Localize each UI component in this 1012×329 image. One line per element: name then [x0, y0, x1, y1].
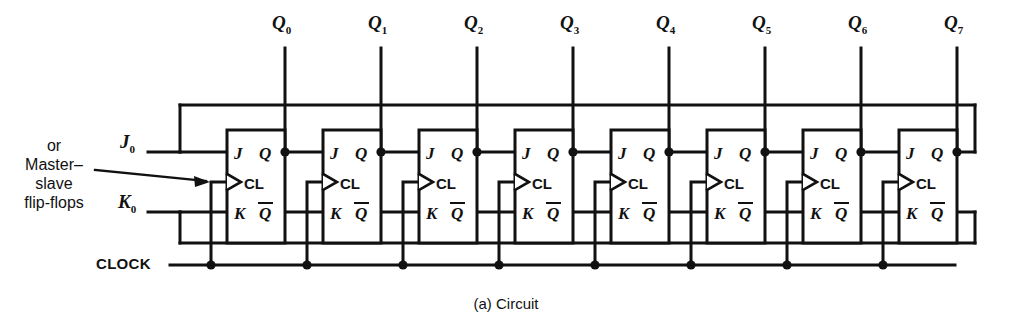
annotation-line-0: or [8, 136, 100, 155]
pin-k-0: K [233, 204, 247, 223]
dot-q1 [376, 147, 385, 156]
pin-j-5: J [713, 144, 723, 163]
output-label-q1: Q1 [368, 12, 387, 36]
annotation-arrow-line [95, 170, 206, 181]
pin-q-4: Q [643, 144, 655, 163]
pin-q-5: Q [739, 144, 751, 163]
pin-cl-0: CL [244, 175, 264, 192]
pin-j-6: J [809, 144, 819, 163]
dot-clock-4 [590, 260, 599, 269]
schematic-svg: J Q CL K Q J Q CL K Q J Q CL K Q J Q CL … [0, 0, 1012, 329]
annotation-line-3: flip-flops [8, 193, 100, 212]
dot-clock-7 [878, 260, 887, 269]
pin-cl-7: CL [916, 175, 936, 192]
figure-caption: (a) Circuit [0, 295, 1012, 312]
output-label-q7: Q7 [944, 12, 963, 36]
pin-cl-6: CL [820, 175, 840, 192]
input-label-j0: J0 [120, 131, 135, 155]
pin-cl-4: CL [628, 175, 648, 192]
pin-cl-5: CL [724, 175, 744, 192]
output-label-q6: Q6 [848, 12, 867, 36]
clock-stub-7 [883, 182, 899, 265]
output-label-q3: Q3 [560, 12, 579, 36]
pin-j-0: J [233, 144, 243, 163]
dot-q4 [664, 147, 673, 156]
dot-q2 [472, 147, 481, 156]
clock-stub-4 [595, 182, 611, 265]
output-label-q4: Q4 [656, 12, 675, 36]
pin-qbar-3: Q [547, 204, 559, 223]
pin-q-1: Q [355, 144, 367, 163]
clock-stub-5 [691, 182, 707, 265]
pin-k-6: K [809, 204, 823, 223]
dot-clock-2 [398, 260, 407, 269]
pin-j-2: J [425, 144, 435, 163]
pin-q-3: Q [547, 144, 559, 163]
clock-stub-0 [211, 182, 227, 265]
dot-q7 [952, 147, 961, 156]
pin-qbar-0: Q [259, 204, 271, 223]
figure-circuit-diagram: J Q CL K Q J Q CL K Q J Q CL K Q J Q CL … [0, 0, 1012, 329]
pin-q-2: Q [451, 144, 463, 163]
pin-qbar-7: Q [931, 204, 943, 223]
annotation-arrow-head [194, 176, 210, 187]
pin-qbar-2: Q [451, 204, 463, 223]
pin-k-1: K [329, 204, 343, 223]
clock-stub-3 [499, 182, 515, 265]
pin-j-4: J [617, 144, 627, 163]
annotation-line-1: Master– [8, 155, 100, 174]
pin-cl-3: CL [532, 175, 552, 192]
clock-stub-6 [787, 182, 803, 265]
dot-clock-3 [494, 260, 503, 269]
output-label-q5: Q5 [752, 12, 771, 36]
dot-q5 [760, 147, 769, 156]
annotation-line-2: slave [8, 174, 100, 193]
annotation-master-slave: or Master– slave flip-flops [8, 136, 100, 212]
pin-qbar-6: Q [835, 204, 847, 223]
pin-j-3: J [521, 144, 531, 163]
clock-stub-1 [307, 182, 323, 265]
input-label-k0: K0 [118, 191, 136, 215]
pin-k-7: K [905, 204, 919, 223]
output-label-q0: Q0 [272, 12, 291, 36]
pin-q-0: Q [259, 144, 271, 163]
pin-q-6: Q [835, 144, 847, 163]
dot-clock-0 [206, 260, 215, 269]
pin-k-5: K [713, 204, 727, 223]
pin-k-2: K [425, 204, 439, 223]
output-label-q2: Q2 [464, 12, 483, 36]
pin-j-1: J [329, 144, 339, 163]
dot-q6 [856, 147, 865, 156]
pin-cl-2: CL [436, 175, 456, 192]
pin-q-7: Q [931, 144, 943, 163]
pin-k-3: K [521, 204, 535, 223]
pin-k-4: K [617, 204, 631, 223]
dot-clock-6 [782, 260, 791, 269]
pin-cl-1: CL [340, 175, 360, 192]
input-label-clock: CLOCK [96, 255, 151, 272]
dot-clock-5 [686, 260, 695, 269]
dot-q3 [568, 147, 577, 156]
clock-stub-2 [403, 182, 419, 265]
pin-qbar-1: Q [355, 204, 367, 223]
pin-qbar-5: Q [739, 204, 751, 223]
pin-j-7: J [905, 144, 915, 163]
dot-clock-1 [302, 260, 311, 269]
dot-q0 [280, 147, 289, 156]
pin-qbar-4: Q [643, 204, 655, 223]
